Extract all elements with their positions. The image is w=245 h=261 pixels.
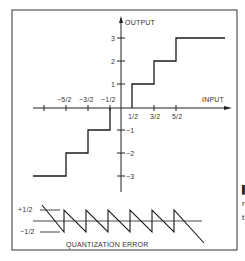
y-tick-label-3: 3 — [111, 35, 115, 42]
staircase-negative — [33, 108, 110, 176]
y-axis-label: OUTPUT — [125, 19, 155, 26]
y-tick-label-neg-3: −3 — [126, 173, 134, 180]
x-tick-label-3-2: 3/2 — [150, 113, 160, 120]
y-tick-label-2: 2 — [111, 58, 115, 65]
x-tick-label-neg-1-2: −1/2 — [101, 96, 116, 103]
y-tick-label-1: 1 — [111, 81, 115, 88]
error-lower-label: −1/2 — [20, 228, 35, 235]
x-tick-label-1-2: 1/2 — [128, 113, 138, 120]
side-text-fragment-2: n — [242, 200, 245, 208]
quantization-error-sawtooth — [42, 205, 204, 243]
side-text-fragment-3: t — [242, 214, 244, 222]
side-text-fragment-1: ▌ — [242, 186, 245, 194]
x-tick-label-neg-5-2: −5/2 — [57, 96, 72, 103]
y-axis-arrow-icon — [119, 16, 123, 23]
quantizer-diagram — [0, 0, 245, 261]
y-tick-label-neg-1: −1 — [126, 127, 134, 134]
error-upper-label: +1/2 — [18, 206, 33, 213]
quantizer-figure: OUTPUT INPUT −5/2 −3/2 −1/2 1/2 3/2 5/2 … — [0, 0, 245, 261]
x-axis-label: INPUT — [202, 96, 224, 103]
x-tick-label-5-2: 5/2 — [172, 113, 182, 120]
x-axis-arrow-icon — [224, 106, 232, 110]
error-caption: QUANTIZATION ERROR — [66, 241, 148, 248]
x-tick-label-neg-3-2: −3/2 — [79, 96, 94, 103]
y-tick-label-neg-2: −2 — [126, 150, 134, 157]
